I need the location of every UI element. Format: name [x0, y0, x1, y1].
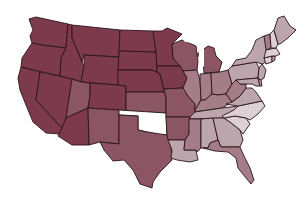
state-wy[interactable]: [81, 55, 119, 85]
state-nj[interactable]: [258, 64, 266, 80]
state-nm[interactable]: [88, 108, 119, 145]
state-fl[interactable]: [203, 140, 254, 184]
state-ri[interactable]: [272, 56, 275, 62]
lake-michigan: [199, 48, 204, 70]
state-nd[interactable]: [119, 30, 156, 52]
state-co[interactable]: [88, 83, 126, 111]
state-sd[interactable]: [118, 51, 157, 72]
state-ar[interactable]: [166, 117, 190, 140]
state-ks[interactable]: [126, 92, 166, 113]
us-choropleth-map: [0, 0, 308, 199]
state-me[interactable]: [274, 16, 296, 44]
